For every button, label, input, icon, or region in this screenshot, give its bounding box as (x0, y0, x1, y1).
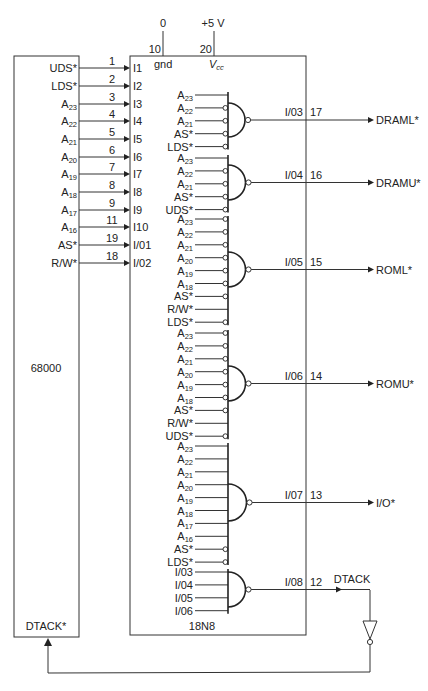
cpu-pin-number: 18 (106, 250, 118, 262)
cpu-pin-number: 2 (109, 73, 115, 85)
output-bubble-icon (246, 180, 251, 185)
dtack-arrow-icon (44, 638, 52, 646)
inversion-bubble-icon (223, 230, 228, 235)
inversion-bubble-icon (223, 395, 228, 400)
pld-input-name: I8 (133, 186, 142, 198)
cpu-signal-label: A21 (61, 133, 77, 147)
gate-input-label: I/04 (175, 579, 193, 591)
gnd-value: 0 (160, 17, 166, 29)
arrow-icon (368, 267, 374, 273)
gate-input-label: A16 (177, 530, 193, 544)
cpu-signal-label: A16 (61, 221, 77, 235)
gnd-label: gnd (154, 58, 172, 70)
gate-input-label: R/W* (167, 303, 193, 315)
cpu-signal-11: R/W*18I/02 (51, 250, 151, 269)
arrow-icon (368, 117, 374, 123)
and-gate-icon (228, 165, 246, 200)
gate-i04: A23A22A21AS*UDS*DRAMU*I/0416 (165, 152, 421, 216)
gate-input-label: A18 (177, 392, 193, 406)
gate-input-label: A18 (177, 278, 193, 292)
output-pin-number: 14 (310, 370, 322, 382)
gate-input-label: A21 (177, 353, 193, 367)
gate-input-label: A19 (177, 492, 193, 506)
and-gate-icon (228, 252, 246, 287)
output-pin-name: I/07 (285, 489, 303, 501)
gate-input-label: LDS* (167, 141, 193, 153)
inversion-bubble-icon (223, 268, 228, 273)
cpu-signal-0: UDS*1I1 (49, 55, 142, 74)
output-bubble-icon (246, 267, 251, 272)
cpu-signal-label: A19 (61, 168, 77, 182)
gate-input-label: A22 (177, 340, 193, 354)
inversion-bubble-icon (223, 181, 228, 186)
dtack-return-wire (48, 645, 370, 673)
gate-input-label: A20 (177, 479, 193, 493)
cpu-signal-label: A17 (61, 204, 77, 218)
cpu-signal-lines: UDS*1I1LDS*2I2A233I3A224I4A215I5A206I6A1… (49, 55, 151, 269)
inversion-bubble-icon (223, 207, 228, 212)
inversion-bubble-icon (223, 106, 228, 111)
gate-input-label: A20 (177, 252, 193, 266)
pld-input-name: I1 (133, 62, 142, 74)
arrow-icon (368, 500, 374, 506)
cpu-pin-number: 5 (109, 126, 115, 138)
pld-input-name: I5 (133, 133, 142, 145)
gate-i06: A23A22A21A20A19A18AS*R/W*UDS*ROMU*I/0614 (165, 327, 414, 442)
power-pins: 0 +5 V 10 20 gnd Vcc (149, 17, 225, 72)
cpu-pin-number: 4 (109, 108, 115, 120)
and-gate-icon (228, 366, 246, 401)
inverter-buffer-icon (363, 621, 377, 639)
pld-input-name: I4 (133, 115, 142, 127)
inversion-bubble-icon (223, 242, 228, 247)
gate-input-label: A23 (177, 327, 193, 341)
gate-input-label: A20 (177, 366, 193, 380)
gate-input-label: A22 (177, 226, 193, 240)
inversion-bubble-icon (223, 118, 228, 123)
gate-input-label: A21 (177, 239, 193, 253)
pld-name: 18N8 (189, 620, 215, 632)
inversion-bubble-icon (223, 194, 228, 199)
and-gate-icon (228, 103, 245, 137)
output-pin-number: 15 (310, 256, 322, 268)
gate-input-label: A21 (177, 466, 193, 480)
cpu-dtack-label: DTACK* (26, 620, 67, 632)
arrow-icon (368, 180, 374, 186)
pld-input-name: I3 (133, 98, 142, 110)
gate-i05: A23A22A21A20A19A18AS*R/W*LDS*ROML*I/0515 (167, 213, 412, 328)
inversion-bubble-icon (223, 382, 228, 387)
arrow-icon (124, 260, 130, 266)
output-pin-name: I/05 (285, 256, 303, 268)
vcc-value: +5 V (202, 17, 226, 29)
arrow-icon (124, 207, 130, 213)
inversion-bubble-icon (223, 294, 228, 299)
pld-input-name: I9 (133, 204, 142, 216)
arrow-icon (124, 224, 130, 230)
output-pin-number: 17 (310, 106, 322, 118)
inversion-bubble-icon (223, 547, 228, 552)
inversion-bubble-icon (223, 369, 228, 374)
gate-input-label: AS* (174, 404, 194, 416)
gate-input-label: A21 (177, 115, 193, 129)
cpu-pin-number: 8 (109, 179, 115, 191)
output-pin-number: 13 (310, 489, 322, 501)
output-pin-name: I/08 (285, 576, 303, 588)
pld-input-name: I2 (133, 80, 142, 92)
arrow-icon (124, 242, 130, 248)
arrow-icon (124, 101, 130, 107)
gate-input-label: AS* (174, 191, 194, 203)
inversion-bubble-icon (223, 217, 228, 222)
and-gate-icon (228, 484, 247, 521)
cpu-signal-label: A18 (61, 186, 77, 200)
inversion-bubble-icon (223, 255, 228, 260)
gate-i08: I/03I/04I/05I/06DTACKI/0812 (175, 566, 371, 617)
output-bubble-icon (246, 381, 251, 386)
output-signal: DRAMU* (376, 177, 421, 189)
output-pin-number: 12 (310, 576, 322, 588)
gate-input-label: A21 (177, 178, 193, 192)
gnd-pin-number: 10 (149, 43, 161, 55)
arrow-icon (124, 189, 130, 195)
cpu-pin-number: 6 (109, 144, 115, 156)
address-decoder-schematic: 0 +5 V 10 20 gnd Vcc 68000 DTACK* 18N8 U… (0, 0, 428, 691)
inversion-bubble-icon (223, 408, 228, 413)
arrow-icon (124, 65, 130, 71)
